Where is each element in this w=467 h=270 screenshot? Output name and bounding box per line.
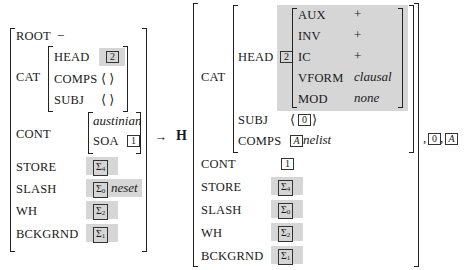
feature-bckgrnd: BCKGRND (16, 227, 79, 242)
cat-open-bracket (48, 46, 53, 112)
type-austinian: austinian (93, 113, 141, 129)
feature-cat: CAT (16, 70, 40, 85)
left-avm-close-bracket (142, 28, 147, 252)
feature-cont: CONT (201, 157, 236, 172)
value-nelist: nelist (303, 132, 331, 148)
sigma-1: Σ1 (93, 227, 108, 243)
sigma-2: Σ2 (278, 226, 293, 242)
head-open-bracket (292, 8, 297, 108)
feature-inv: INV (298, 29, 321, 44)
feature-subj: SUBJ (54, 93, 84, 108)
right-avm-close-bracket (414, 3, 419, 267)
head-close-bracket (398, 8, 403, 108)
tag-a: A (290, 135, 303, 147)
tag-1: 1 (127, 135, 140, 147)
feature-ic: IC (298, 50, 311, 65)
feature-vform: VFORM (298, 71, 343, 86)
value-root: − (57, 28, 64, 44)
value-subj: ⟨ ⟩ (101, 92, 114, 108)
value-mod: none (354, 90, 379, 106)
comma-separator: , (423, 130, 426, 146)
subj-close-angle: ⟩ (312, 112, 317, 128)
feature-bckgrnd: BCKGRND (201, 249, 264, 264)
sigma-1: Σ1 (278, 249, 293, 265)
feature-slash: SLASH (201, 203, 242, 218)
value-ic: + (354, 48, 361, 64)
value-neset: neset (111, 180, 138, 196)
feature-soa: SOA (93, 134, 119, 149)
daughter-tag-a: A (445, 133, 458, 145)
feature-cat: CAT (201, 70, 225, 85)
feature-mod: MOD (298, 92, 328, 107)
subj-open-angle: ⟨ (290, 112, 295, 128)
value-comps: ⟨ ⟩ (101, 71, 114, 87)
cat-close-bracket (409, 5, 414, 153)
value-vform: clausal (354, 69, 392, 85)
sigma-0: Σ0 (93, 182, 108, 198)
feature-wh: WH (201, 226, 222, 241)
feature-wh: WH (16, 204, 37, 219)
feature-subj: SUBJ (238, 113, 268, 128)
right-avm-open-bracket (193, 3, 198, 267)
tag-0: 0 (298, 114, 311, 126)
feature-root: ROOT (16, 29, 51, 44)
comma-separator: , (440, 130, 443, 146)
feature-store: STORE (16, 160, 56, 175)
feature-comps: COMPS (54, 72, 97, 87)
feature-store: STORE (201, 180, 241, 195)
feature-comps: COMPS (238, 134, 281, 149)
tag-1: 1 (281, 158, 294, 170)
value-inv: + (354, 27, 361, 43)
cat-open-bracket (233, 5, 238, 153)
feature-aux: AUX (298, 8, 326, 23)
value-aux: + (354, 6, 361, 22)
rewrite-arrow-icon: → (154, 129, 167, 145)
head-daughter-label: H (176, 128, 187, 144)
feature-cont: CONT (16, 127, 51, 142)
tag-2: 2 (106, 51, 119, 63)
feature-slash: SLASH (16, 182, 57, 197)
sigma-4: Σ4 (93, 160, 108, 176)
feature-head: HEAD (54, 50, 90, 65)
sigma-0: Σ0 (278, 203, 293, 219)
sigma-2: Σ2 (93, 204, 108, 220)
feature-head: HEAD (238, 50, 274, 65)
sigma-4: Σ4 (278, 180, 293, 196)
left-avm-open-bracket (10, 28, 15, 252)
